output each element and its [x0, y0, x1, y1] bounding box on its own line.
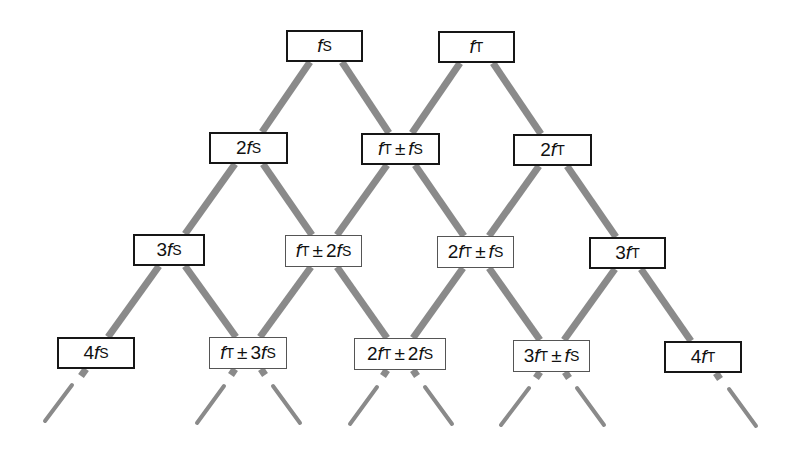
edge-3fT-3fTpmfS: [564, 269, 615, 340]
node-3fT-pm-fS: 3fT±fS: [513, 340, 590, 372]
node-fT-pm-3fS: fT±3fS: [209, 337, 287, 369]
stub-4fT-right: [729, 389, 756, 426]
stub-2fTpm2fS-right: [425, 387, 452, 424]
stub-3fTpmfS-left: [501, 388, 529, 425]
edge-2fT-2fTpmfS: [489, 166, 539, 236]
node-fS: fS: [286, 30, 363, 62]
node-2fT-pm-2fS: 2fT±2fS: [354, 338, 446, 370]
edge-2fT-3fT: [567, 166, 616, 237]
nub: [81, 369, 86, 376]
nub: [565, 372, 569, 378]
nub: [716, 373, 720, 379]
node-4fT: 4fT: [664, 341, 742, 373]
edge-fTpm2fS-fTpm3fS: [260, 267, 311, 337]
edge-3fS-fTpm3fS: [185, 266, 236, 337]
edge-fTpmfS-fTpm2fS: [337, 165, 387, 235]
edge-fTpmfS-2fTpmfS: [415, 165, 464, 236]
nub: [413, 370, 417, 376]
node-3fT: 3fT: [589, 237, 666, 269]
stub-2fTpm2fS-left: [350, 387, 377, 424]
edge-fS-fTpmfS: [342, 62, 389, 133]
edge-fT-2fT: [493, 63, 541, 134]
nub: [231, 369, 235, 375]
edge-2fS-fTpm2fS: [263, 164, 312, 235]
edge-3fT-4fT: [641, 269, 691, 341]
nub: [536, 372, 540, 378]
node-fT-pm-fS: fT±fS: [361, 133, 440, 165]
edge-fS-2fS: [262, 62, 310, 132]
node-3fS: 3fS: [133, 234, 205, 266]
edge-2fTpmfS-2fTpm2fS: [413, 268, 463, 338]
node-fT-pm-2fS: fT±2fS: [285, 235, 362, 267]
stub-fTpm3fS-left: [197, 386, 224, 423]
stub-4fS-left: [45, 385, 72, 421]
node-fT: fT: [438, 31, 515, 63]
stub-3fTpmfS-right: [577, 388, 604, 425]
node-4fS: 4fS: [57, 337, 135, 369]
edge-fTpm2fS-2fTpm2fS: [337, 267, 387, 338]
node-2fS: 2fS: [209, 132, 288, 164]
lattice-lines: [0, 0, 787, 451]
node-2fT: 2fT: [513, 134, 592, 166]
edge-fT-fTpmfS: [412, 63, 460, 133]
edge-3fS-4fS: [108, 266, 159, 337]
stub-fTpm3fS-right: [273, 386, 300, 423]
nub: [383, 370, 387, 376]
nub: [261, 369, 265, 375]
edge-2fTpmfS-3fTpmfS: [489, 268, 540, 340]
node-2fT-pm-fS: 2fT±fS: [437, 236, 514, 268]
edge-2fS-3fS: [185, 164, 235, 234]
